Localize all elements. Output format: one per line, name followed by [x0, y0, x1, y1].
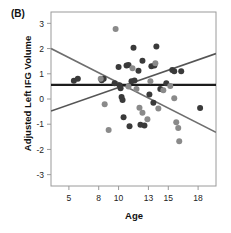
y-tick-label: -3: [36, 170, 44, 180]
data-point: [126, 83, 132, 89]
y-tick-label: 1: [39, 69, 44, 79]
data-point: [127, 123, 133, 129]
data-point: [121, 114, 127, 120]
data-point: [153, 44, 159, 50]
x-tick-label: 10: [114, 193, 124, 203]
x-tick-label: 13: [144, 193, 154, 203]
negative-slope-regression-line: [51, 49, 216, 133]
plot-frame: [51, 12, 216, 186]
plot-border: [51, 12, 216, 186]
data-point: [144, 116, 150, 122]
x-axis-ticks: 5810131518: [67, 186, 204, 203]
x-tick-label: 15: [164, 193, 174, 203]
data-point: [113, 26, 119, 32]
y-tick-label: 0: [39, 94, 44, 104]
data-point: [118, 85, 124, 91]
data-point: [171, 95, 177, 101]
y-tick-label: -2: [36, 145, 44, 155]
data-point: [139, 110, 145, 116]
data-point: [75, 76, 81, 82]
data-point: [106, 127, 112, 133]
data-point: [171, 68, 177, 74]
y-tick-label: 2: [39, 44, 44, 54]
data-point: [102, 101, 108, 107]
data-point: [150, 100, 156, 106]
x-tick-label: 8: [96, 193, 101, 203]
data-point: [136, 105, 142, 111]
data-point: [116, 64, 122, 70]
data-point: [175, 125, 181, 131]
x-tick-label: 18: [193, 193, 203, 203]
data-point: [197, 105, 203, 111]
data-point: [160, 87, 166, 93]
scatter-plot-canvas: 5810131518 3210-1-2-3: [0, 0, 231, 233]
data-point: [146, 91, 152, 97]
x-tick-label: 5: [67, 193, 72, 203]
y-axis-ticks: 3210-1-2-3: [36, 19, 51, 180]
regression-lines: [51, 49, 216, 133]
data-point: [139, 58, 145, 64]
data-point: [130, 65, 136, 71]
data-point: [141, 122, 147, 128]
data-point: [167, 83, 173, 89]
figure-panel-b: (B) Adjusted Left IFG Volume Age 5810131…: [0, 0, 231, 233]
data-point: [176, 138, 182, 144]
data-point: [152, 60, 158, 66]
data-point: [135, 68, 141, 74]
data-point: [155, 106, 161, 112]
data-point: [131, 78, 137, 84]
data-point: [178, 68, 184, 74]
y-tick-label: -1: [36, 119, 44, 129]
y-tick-label: 3: [39, 19, 44, 29]
data-point: [120, 97, 126, 103]
data-point: [133, 86, 139, 92]
data-point: [173, 119, 179, 125]
data-point: [98, 76, 104, 82]
data-point: [147, 78, 153, 84]
data-point: [131, 45, 137, 51]
